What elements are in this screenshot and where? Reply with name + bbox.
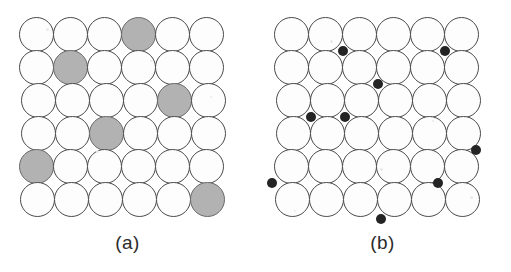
interstitial-atom-dot (376, 214, 386, 224)
substitutional-atom-circle (157, 83, 192, 118)
host-atom-circle (342, 17, 377, 52)
panel-a-caption: (a) (0, 232, 255, 254)
host-atom-circle (344, 83, 379, 118)
substitutional-atom-circle (53, 50, 88, 85)
host-atom-circle (191, 83, 226, 118)
host-atom-circle (344, 116, 379, 151)
host-atom-circle (21, 116, 56, 151)
interstitial-atom-dot (340, 112, 350, 122)
host-atom-circle (412, 83, 447, 118)
host-atom-circle (310, 83, 345, 118)
host-atom-circle (55, 116, 90, 151)
host-atom-circle (121, 149, 156, 184)
host-atom-circle (87, 50, 122, 85)
substitutional-atom-circle (19, 149, 54, 184)
host-atom-circle (53, 149, 88, 184)
host-atom-circle (156, 182, 191, 217)
host-atom-circle (155, 17, 190, 52)
interstitial-atom-dot (373, 79, 383, 89)
host-atom-circle (20, 182, 55, 217)
host-atom-circle (19, 50, 54, 85)
host-atom-circle (376, 17, 411, 52)
lattice-grid-a (0, 0, 255, 232)
lattice-grid-b (255, 0, 510, 232)
host-atom-circle (189, 17, 224, 52)
interstitial-atom-dot (433, 178, 443, 188)
host-atom-circle (191, 116, 226, 151)
substitutional-atom-circle (190, 182, 225, 217)
host-atom-circle (275, 182, 310, 217)
host-atom-circle (343, 182, 378, 217)
host-atom-circle (444, 17, 479, 52)
host-atom-circle (342, 50, 377, 85)
host-atom-circle (189, 149, 224, 184)
host-atom-circle (378, 116, 413, 151)
host-atom-circle (308, 149, 343, 184)
figure-root: (a) (b) (0, 0, 511, 272)
host-atom-circle (122, 182, 157, 217)
host-atom-circle (54, 182, 89, 217)
host-atom-circle (21, 83, 56, 118)
host-atom-circle (123, 116, 158, 151)
interstitial-atom-dot (267, 178, 277, 188)
host-atom-circle (88, 182, 123, 217)
host-atom-circle (121, 50, 156, 85)
panel-b-caption: (b) (255, 232, 510, 254)
host-atom-circle (308, 50, 343, 85)
host-atom-circle (87, 17, 122, 52)
host-atom-circle (276, 116, 311, 151)
host-atom-circle (342, 149, 377, 184)
host-atom-circle (308, 17, 343, 52)
host-atom-circle (155, 149, 190, 184)
host-atom-circle (276, 83, 311, 118)
host-atom-circle (378, 83, 413, 118)
host-atom-circle (445, 182, 480, 217)
host-atom-circle (377, 182, 412, 217)
substitutional-atom-circle (89, 116, 124, 151)
host-atom-circle (123, 83, 158, 118)
host-atom-circle (444, 50, 479, 85)
host-atom-circle (446, 83, 481, 118)
host-atom-circle (155, 50, 190, 85)
host-atom-circle (412, 116, 447, 151)
host-atom-circle (189, 50, 224, 85)
interstitial-atom-dot (471, 145, 481, 155)
host-atom-circle (53, 17, 88, 52)
host-atom-circle (87, 149, 122, 184)
host-atom-circle (89, 83, 124, 118)
host-atom-circle (157, 116, 192, 151)
substitutional-atom-circle (121, 17, 156, 52)
host-atom-circle (274, 17, 309, 52)
host-atom-circle (19, 17, 54, 52)
host-atom-circle (309, 182, 344, 217)
host-atom-circle (410, 17, 445, 52)
host-atom-circle (274, 149, 309, 184)
host-atom-circle (310, 116, 345, 151)
host-atom-circle (274, 50, 309, 85)
interstitial-atom-dot (306, 112, 316, 122)
host-atom-circle (376, 149, 411, 184)
host-atom-circle (410, 50, 445, 85)
interstitial-atom-dot (338, 46, 348, 56)
host-atom-circle (55, 83, 90, 118)
host-atom-circle (411, 182, 446, 217)
interstitial-atom-dot (440, 46, 450, 56)
